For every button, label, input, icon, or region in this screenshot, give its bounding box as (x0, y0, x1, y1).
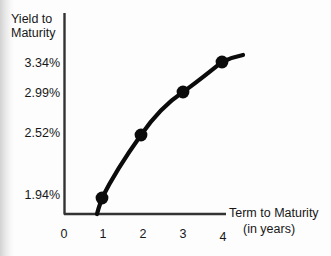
chart-page: Yield to Maturity 3.34% 2.99% 2.52% 1.94… (0, 0, 331, 256)
x-tick-label-3: 3 (173, 228, 193, 241)
data-point-marker (216, 56, 229, 69)
x-tick-label-0: 0 (54, 228, 74, 241)
data-point-marker (96, 192, 109, 205)
y-axis-title-line2: Maturity (11, 26, 55, 40)
data-point-marker (135, 129, 148, 142)
x-tick-label-2: 2 (133, 228, 153, 241)
x-tick-label-4: 4 (213, 231, 233, 244)
x-axis-title: Term to Maturity (229, 206, 319, 220)
y-tick-label-3: 3.34% (4, 57, 60, 70)
yield-curve-line (97, 55, 243, 214)
y-axis-title: Yield to Maturity (11, 12, 55, 40)
y-tick-label-1: 2.52% (4, 127, 60, 140)
y-tick-label-0: 1.94% (4, 189, 60, 202)
y-tick-label-2: 2.99% (4, 87, 60, 100)
y-axis-title-line1: Yield to (11, 12, 55, 26)
data-point-marker (177, 86, 190, 99)
x-axis-title-sub: (in years) (243, 222, 295, 236)
x-tick-label-1: 1 (93, 228, 113, 241)
